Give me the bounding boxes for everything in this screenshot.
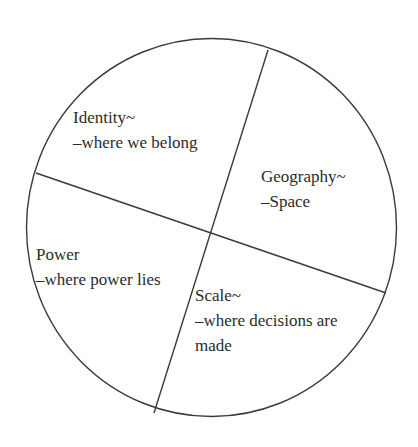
sector-title: Scale~ [195,283,338,308]
sector-description: –where power lies [36,267,161,292]
sector-label-power: Power –where power lies [36,242,161,292]
sector-description: –where we belong [73,130,198,155]
sector-title: Identity~ [73,105,198,130]
sector-label-scale: Scale~ –where decisions are made [195,283,338,358]
outer-circle [27,39,397,417]
sector-description: –where decisions are [195,308,338,333]
sector-title: Geography~ [261,164,346,189]
sector-label-geography: Geography~ –Space [261,164,346,214]
circle-diagram [0,0,418,447]
sector-description: –Space [261,189,346,214]
sector-label-identity: Identity~ –where we belong [73,105,198,155]
sector-description-continued: made [195,333,338,358]
sector-title: Power [36,242,161,267]
